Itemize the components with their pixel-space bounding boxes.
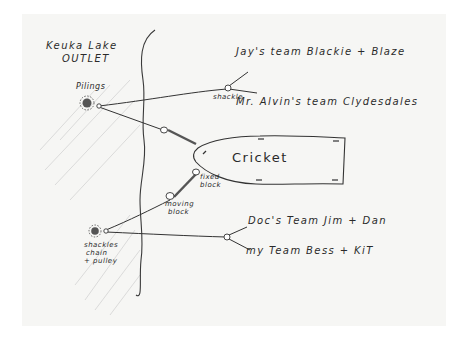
team-label-alvin: Mr. Alvin's team Clydesdales	[236, 96, 418, 107]
pilings-icon	[80, 96, 94, 110]
rope-pilings-to-shackle	[99, 89, 227, 106]
pilings-label: Pilings	[76, 83, 105, 91]
shackle-top-icon	[225, 85, 231, 91]
moving-block-label-line1: moving	[165, 200, 194, 208]
rope-shackle-to-jay	[229, 72, 248, 86]
rope-anchor-to-moving-block	[106, 200, 170, 230]
team-label-mine: my Team Bess + KiT	[246, 245, 374, 256]
block-upper-icon	[161, 127, 168, 133]
fixed-block-label-line2: block	[200, 181, 221, 189]
fixed-block-label-line1: fixed	[200, 173, 220, 181]
location-label-line2: OUTLET	[62, 53, 110, 64]
fixed-block-icon	[193, 169, 200, 175]
moving-block-icon	[166, 193, 174, 200]
team-label-doc: Doc's Team Jim + Dan	[248, 215, 387, 226]
rope-to-fixed-block-top	[168, 130, 196, 144]
boat-name: Cricket	[232, 150, 288, 165]
bottom-anchor-label-line2: chain	[86, 249, 107, 257]
shackle-pilings-icon	[97, 104, 101, 108]
shoreline	[136, 30, 155, 296]
location-label-line1: Keuka Lake	[46, 40, 117, 51]
rope-moving-to-fixed	[174, 172, 198, 197]
shore-hatching	[40, 80, 140, 315]
bottom-anchor-icon	[89, 225, 101, 237]
rope-shackle-to-doc	[229, 227, 247, 235]
moving-block-label-line2: block	[168, 208, 189, 216]
team-label-jay: Jay's team Blackie + Blaze	[236, 46, 406, 57]
shackle-anchor-icon	[104, 229, 108, 233]
rope-anchor-to-shackle	[106, 232, 226, 237]
rope-pilings-to-block	[99, 107, 163, 130]
bottom-anchor-label-line3: + pulley	[84, 257, 117, 265]
bottom-anchor-label-line1: shackles	[84, 241, 118, 249]
shackle-bottom-icon	[224, 234, 230, 240]
